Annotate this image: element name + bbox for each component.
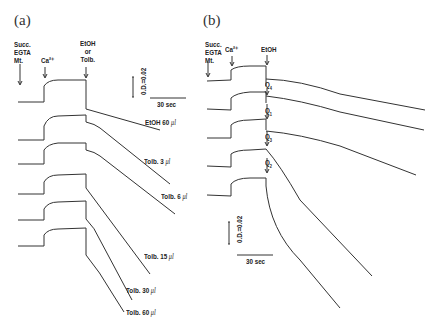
addition-etoh-or-tolb-a: EtOH or Tolb. xyxy=(80,40,96,64)
scale-time-a: 30 sec xyxy=(157,101,176,109)
addition-succ-egta-mt-b: Succ. EGTA Mt. xyxy=(205,41,222,65)
scale-time-b: 30 sec xyxy=(246,258,265,266)
trace-label: Tolb. 60 μl xyxy=(126,309,156,317)
scale-od-b: 0.D.=0.02 xyxy=(236,216,244,243)
panel-b-label: (b) xyxy=(203,12,221,29)
addition-ca-a: Ca²⁺ xyxy=(41,57,54,65)
trace-label: Tolb. 15 μl xyxy=(144,253,174,261)
marker-q: Q2 xyxy=(265,159,272,170)
trace-label: EtOH 60 μl xyxy=(145,119,176,127)
scale-od-a: 0.D.=0.02 xyxy=(140,68,148,95)
marker-q: Q1 xyxy=(265,107,272,118)
addition-ca-b: Ca²⁺ xyxy=(225,46,238,54)
trace-label: Tolb. 6 μl xyxy=(161,193,187,201)
trace-label: Tolb. 30 μl xyxy=(126,287,156,295)
trace-label: Tolb. 3 μl xyxy=(144,158,170,166)
addition-etoh-b: EtOH xyxy=(261,46,277,54)
panel-a-label: (a) xyxy=(14,12,31,29)
marker-q: Q3 xyxy=(265,133,272,144)
marker-q: Q4 xyxy=(265,81,272,92)
addition-succ-egta-mt-a: Succ. EGTA Mt. xyxy=(14,41,31,65)
